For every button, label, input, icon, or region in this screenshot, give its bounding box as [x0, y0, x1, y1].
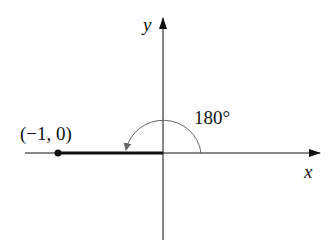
angle-label: 180° [194, 107, 230, 128]
point-label: (−1, 0) [20, 123, 72, 145]
angle-diagram: y x (−1, 0) 180° [0, 0, 335, 248]
y-axis-label: y [141, 14, 152, 35]
point-marker [55, 150, 62, 157]
x-axis-label: x [303, 161, 313, 182]
